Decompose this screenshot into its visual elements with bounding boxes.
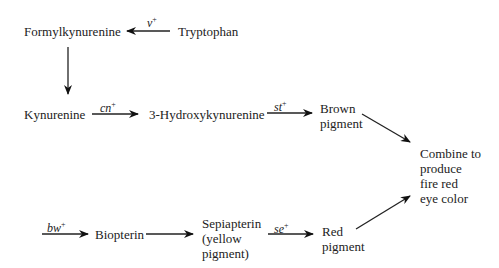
- gene-label-se: se+: [274, 220, 289, 235]
- node-sepiapterin: Sepiapterin (yellow pigment): [202, 216, 261, 261]
- node-line: produce: [420, 161, 481, 176]
- gene-allele: +: [111, 100, 116, 109]
- node-tryptophan: Tryptophan: [178, 24, 238, 39]
- gene-allele: +: [152, 15, 157, 24]
- node-line: Red: [322, 224, 365, 239]
- gene-allele: +: [284, 221, 289, 230]
- node-line: pigment: [320, 116, 363, 131]
- gene-label-st: st+: [274, 98, 287, 113]
- node-line: pigment): [202, 246, 261, 261]
- node-line: pigment: [322, 239, 365, 254]
- gene-label-v: v+: [147, 14, 157, 29]
- node-line: Combine to: [420, 146, 481, 161]
- node-kynurenine: Kynurenine: [24, 107, 85, 122]
- node-line: fire red: [420, 176, 481, 191]
- node-brown-pigment: Brown pigment: [320, 101, 363, 131]
- arrow-brown-to-combine: [362, 114, 410, 142]
- node-line: Sepiapterin: [202, 216, 261, 231]
- gene-name: bw: [47, 221, 61, 235]
- node-line: eye color: [420, 191, 481, 206]
- gene-allele: +: [61, 220, 66, 229]
- node-red-pigment: Red pigment: [322, 224, 365, 254]
- node-3-hydroxykynurenine: 3-Hydroxykynurenine: [149, 107, 265, 122]
- gene-name: cn: [100, 101, 111, 115]
- gene-allele: +: [282, 99, 287, 108]
- node-formylkynurenine: Formylkynurenine: [24, 24, 121, 39]
- gene-name: st: [274, 100, 282, 114]
- node-combine-eye-color: Combine to produce fire red eye color: [420, 146, 481, 206]
- node-line: (yellow: [202, 231, 261, 246]
- gene-label-cn: cn+: [100, 99, 116, 114]
- gene-name: se: [274, 222, 284, 236]
- node-biopterin: Biopterin: [95, 227, 144, 242]
- node-line: Brown: [320, 101, 363, 116]
- gene-label-bw: bw+: [47, 219, 66, 234]
